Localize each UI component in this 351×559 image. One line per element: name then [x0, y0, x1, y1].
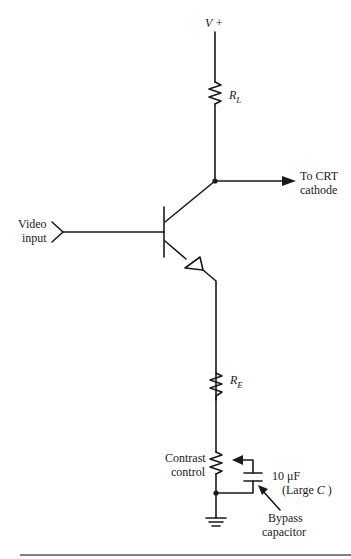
- ground-icon: [206, 518, 226, 526]
- input-connector-icon: [52, 222, 63, 242]
- supply-label: V +: [205, 16, 223, 30]
- bypass-label-line2: capacitor: [262, 525, 306, 539]
- wiper-arrow-icon: [232, 455, 243, 465]
- transistor-emitter-lead: [165, 241, 186, 259]
- emitter-arrow-icon: [185, 257, 203, 270]
- capacitor-return-wire: [216, 481, 253, 493]
- input-label-line1: Video: [18, 217, 47, 231]
- transistor-collector-lead: [165, 181, 215, 222]
- contrast-label-line2: control: [171, 465, 206, 479]
- capacitor-value-label: 10 μF: [272, 469, 300, 483]
- input-label-line2: input: [22, 231, 47, 245]
- ground-node-icon: [213, 490, 218, 495]
- load-resistor-icon: [209, 82, 221, 104]
- contrast-potentiometer-icon: [210, 452, 222, 474]
- load-resistor-label: RL: [228, 88, 241, 105]
- contrast-label-line1: Contrast: [165, 451, 206, 465]
- bypass-pointer-arrow-icon: [258, 485, 268, 495]
- emitter-resistor-label: RE: [229, 373, 243, 390]
- output-arrow-icon: [282, 176, 296, 186]
- capacitor-note-label: (Large C ): [282, 483, 332, 497]
- wiper-wire: [243, 460, 253, 473]
- output-label-line1: To CRT: [300, 169, 339, 183]
- circuit-diagram: V + RL To CRT cathode Video input RE Con…: [0, 0, 351, 559]
- bypass-label-line1: Bypass: [268, 511, 303, 525]
- output-label-line2: cathode: [300, 183, 337, 197]
- bypass-pointer-line: [262, 490, 280, 510]
